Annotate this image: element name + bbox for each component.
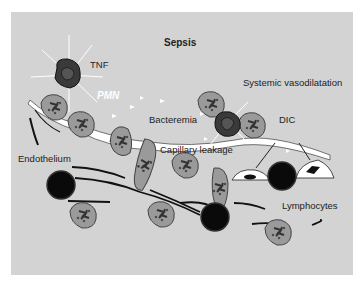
pmn-cell-icon	[55, 59, 80, 88]
label-tnf: TNF	[90, 60, 108, 70]
label-dic: DIC	[279, 115, 295, 125]
label-bacteremia: Bacteremia	[149, 115, 197, 125]
label-endothelium: Endothelium	[18, 154, 71, 164]
label-pmn: PMN	[97, 91, 119, 101]
label-systemic-vasodilatation: Systemic vasodilatation	[243, 78, 342, 88]
label-capillary-leakage: Capillary leakage	[160, 145, 233, 155]
diagram-title: Sepsis	[164, 38, 196, 48]
label-lymphocytes: Lymphocytes	[282, 201, 338, 211]
